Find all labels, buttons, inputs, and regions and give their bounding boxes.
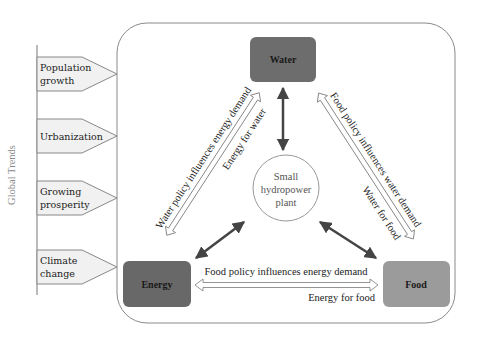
trend-label-line1: Climate <box>40 255 78 266</box>
hollow-double-arrow <box>162 89 265 238</box>
energy-food-bottom-label: Energy for food <box>308 292 376 303</box>
node-water: Water <box>250 37 316 82</box>
trend-label-line2: prosperity <box>40 199 90 210</box>
hollow-double-arrow <box>314 90 419 242</box>
trend-urbanization: Urbanization <box>37 119 117 153</box>
hub-label-line1: Small <box>274 171 299 182</box>
trend-label-line1: Population <box>40 62 91 73</box>
node-food: Food <box>383 261 450 307</box>
node-energy: Energy <box>123 261 191 307</box>
trend-label-line1: Urbanization <box>40 131 103 142</box>
link-water-energy: Water policy influences energy demand En… <box>152 83 274 245</box>
trend-growing-prosperity: Growing prosperity <box>37 181 117 215</box>
trend-population-growth: Population growth <box>37 57 117 91</box>
hub-small-hydropower-plant: Small hydropower plant <box>253 155 319 221</box>
trend-label-line2: change <box>40 268 75 279</box>
link-energy-food: Food policy influences energy demand Ene… <box>195 266 378 303</box>
food-label: Food <box>405 279 427 290</box>
hub-food-arrow <box>320 222 376 258</box>
water-label: Water <box>270 54 297 65</box>
trend-climate-change: Climate change <box>37 250 117 284</box>
energy-label: Energy <box>141 279 172 290</box>
hub-label-line3: plant <box>276 197 297 208</box>
hollow-double-arrow <box>195 279 378 291</box>
wef-nexus-diagram: Global Trends Population growth Urbaniza… <box>0 0 477 337</box>
trend-label-line2: growth <box>40 75 74 86</box>
global-trends-label: Global Trends <box>6 145 17 205</box>
energy-food-top-label: Food policy influences energy demand <box>204 266 368 277</box>
hub-energy-arrow <box>196 222 244 258</box>
global-trends-panel: Global Trends Population growth Urbaniza… <box>6 45 117 295</box>
trend-label-line1: Growing <box>40 186 81 197</box>
hub-label-line2: hydropower <box>261 184 312 195</box>
